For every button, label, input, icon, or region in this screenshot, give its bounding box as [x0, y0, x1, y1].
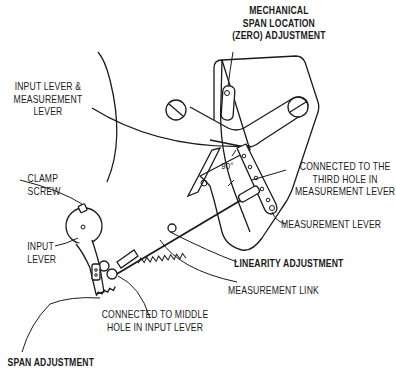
linearity-spring	[138, 253, 186, 263]
label-linearity-adjustment: LINEARITY ADJUSTMENT	[234, 257, 343, 270]
linearity-nut	[168, 224, 176, 232]
label-mechanical-span-adjustment: MECHANICAL SPAN LOCATION (ZERO) ADJUSTME…	[232, 4, 325, 42]
label-connected-third-hole: CONNECTED TO THE THIRD HOLE IN MEASUREME…	[295, 160, 395, 198]
left-link-bar	[188, 148, 220, 196]
input-lever-hub	[66, 208, 102, 244]
label-input-lever-measurement-lever: INPUT LEVER & MEASUREMENT LEVER	[14, 80, 83, 118]
label-clamp-screw: CLAMP SCREW	[28, 172, 61, 197]
label-input-lever: INPUT LEVER	[27, 240, 56, 265]
label-span-adjustment: SPAN ADJUSTMENT	[8, 356, 95, 369]
label-measurement-lever: MEASUREMENT LEVER	[281, 218, 381, 231]
label-measurement-link: MEASUREMENT LINK	[228, 284, 319, 297]
label-connected-middle-hole: CONNECTED TO MIDDLE HOLE IN INPUT LEVER	[102, 308, 209, 333]
label-angle-90: 90°	[221, 160, 233, 173]
